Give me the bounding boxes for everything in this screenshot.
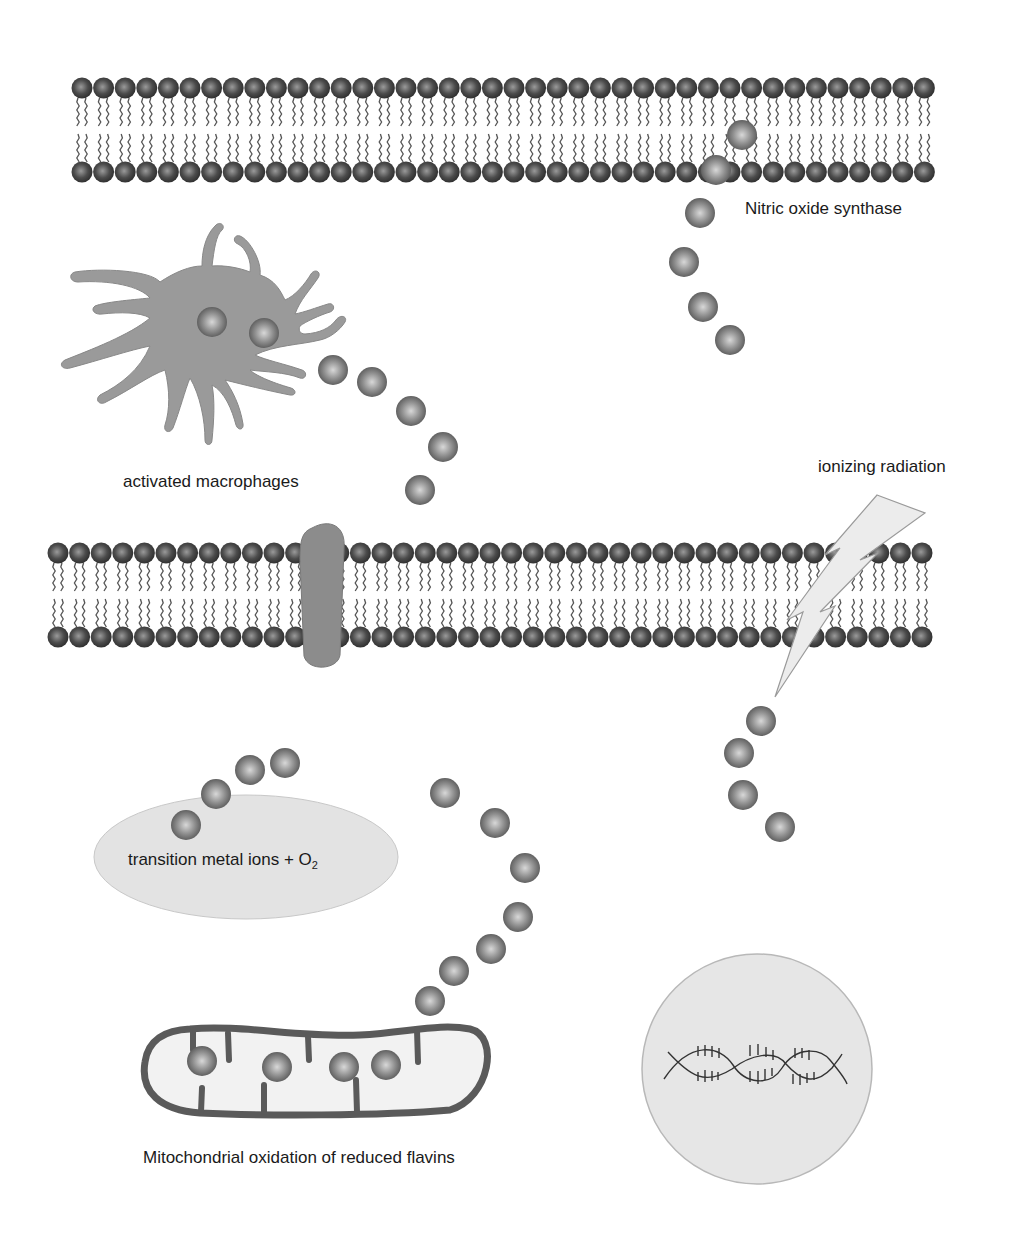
- radical-sphere: [746, 706, 776, 736]
- radical-sphere: [415, 986, 445, 1016]
- radical-sphere: [396, 396, 426, 426]
- radical-sphere: [480, 808, 510, 838]
- radical-sphere: [688, 292, 718, 322]
- label-nitric-oxide-synthase: Nitric oxide synthase: [745, 199, 902, 219]
- radical-sphere: [669, 247, 699, 277]
- mitochondria-stream: [415, 778, 540, 1016]
- radical-sphere: [187, 1046, 217, 1076]
- radical-sphere: [428, 432, 458, 462]
- radical-sphere: [439, 956, 469, 986]
- radical-sphere: [765, 812, 795, 842]
- cell-membrane-top: [72, 78, 935, 183]
- label-mitochondrial-oxidation: Mitochondrial oxidation of reduced flavi…: [143, 1148, 455, 1168]
- radical-sphere: [318, 355, 348, 385]
- radical-sphere: [405, 475, 435, 505]
- radical-sphere: [201, 779, 231, 809]
- radical-sphere: [329, 1052, 359, 1082]
- radical-sphere: [371, 1050, 401, 1080]
- radical-sphere: [724, 738, 754, 768]
- radical-sphere: [270, 748, 300, 778]
- free-radicals: [171, 120, 795, 1082]
- radical-sphere: [171, 810, 201, 840]
- radical-sphere: [728, 780, 758, 810]
- radical-sphere: [510, 853, 540, 883]
- radical-sphere: [357, 367, 387, 397]
- label-oxygen-subscript: 2: [312, 859, 318, 871]
- label-activated-macrophages: activated macrophages: [123, 472, 299, 492]
- radical-sphere: [430, 778, 460, 808]
- diagram-canvas: [0, 0, 1030, 1234]
- radical-sphere: [197, 307, 227, 337]
- label-transition-metal-ions: transition metal ions + O2: [128, 850, 318, 871]
- label-ionizing-radiation: ionizing radiation: [818, 457, 946, 477]
- radical-sphere: [701, 155, 731, 185]
- radical-sphere: [715, 325, 745, 355]
- radical-sphere: [503, 902, 533, 932]
- radical-sphere: [249, 318, 279, 348]
- nucleus: [642, 954, 872, 1184]
- oxidative-stress-diagram: Nitric oxide synthase activated macropha…: [0, 0, 1030, 1234]
- radical-sphere: [262, 1052, 292, 1082]
- channel-protein: [300, 524, 344, 667]
- radical-sphere: [476, 934, 506, 964]
- radical-sphere: [235, 755, 265, 785]
- macrophage-stream: [318, 355, 458, 505]
- radical-sphere: [685, 198, 715, 228]
- radical-sphere: [727, 120, 757, 150]
- label-transition-metal-text: transition metal ions + O: [128, 850, 312, 869]
- radiation-stream: [724, 706, 795, 842]
- lightning-bolt-icon: [775, 495, 925, 697]
